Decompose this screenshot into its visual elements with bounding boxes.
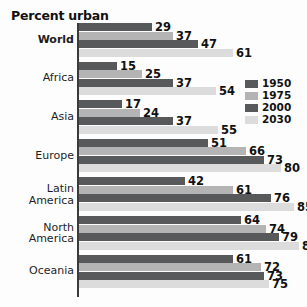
bar (79, 272, 264, 280)
bar-group: Oceania61727375 (0, 255, 307, 289)
bar (79, 233, 279, 241)
bar (79, 203, 294, 211)
legend-swatch-icon (245, 116, 258, 124)
bar (79, 216, 241, 224)
bar-group-bars: 42617685 (79, 177, 307, 211)
bar-row: 55 (79, 126, 307, 134)
bar-value-label: 87 (299, 238, 307, 252)
bar-value-label: 80 (281, 161, 300, 175)
bar-row: 15 (79, 62, 307, 70)
bar (79, 87, 216, 95)
bar-row: 42 (79, 177, 307, 185)
legend: 1950197520002030 (245, 78, 303, 126)
bar-group: World29374761 (0, 23, 307, 57)
bar-group-bars: 64747987 (79, 216, 307, 250)
category-label: Latin America (29, 183, 74, 206)
percent-urban-chart: Percent urban World29374761Africa1525375… (0, 0, 307, 307)
bar (79, 186, 233, 194)
category-label: Africa (43, 73, 74, 85)
legend-swatch-icon (245, 80, 258, 88)
category-label: North America (29, 221, 74, 244)
bar-row: 29 (79, 23, 307, 31)
bar-group-bars: 61727375 (79, 255, 307, 289)
bar (79, 40, 198, 48)
bar (79, 164, 281, 172)
bar (79, 242, 299, 250)
bar (79, 225, 266, 233)
legend-label: 1950 (262, 78, 291, 89)
legend-item: 2030 (245, 114, 303, 126)
bar (79, 156, 264, 164)
bar (79, 263, 261, 271)
bar-value-label: 85 (294, 200, 307, 214)
bar-value-label: 75 (269, 277, 288, 291)
bar (79, 23, 152, 31)
category-label: World (38, 34, 74, 46)
bar-row: 76 (79, 194, 307, 202)
bar-row: 47 (79, 40, 307, 48)
page-title: Percent urban (11, 8, 109, 23)
bar-row: 37 (79, 32, 307, 40)
bar (79, 109, 140, 117)
plot-area: World29374761Africa15253754Asia17243755E… (0, 22, 307, 298)
category-label: Oceania (29, 266, 74, 278)
legend-item: 1975 (245, 90, 303, 102)
bar (79, 177, 185, 185)
bar-group: Europe51667380 (0, 139, 307, 173)
category-label: Europe (35, 150, 74, 162)
bar-value-label: 55 (218, 122, 237, 136)
bar-row: 85 (79, 203, 307, 211)
bar (79, 70, 142, 78)
bar (79, 280, 269, 288)
bar-row: 80 (79, 164, 307, 172)
bar (79, 117, 173, 125)
bar-row: 87 (79, 242, 307, 250)
bar (79, 32, 173, 40)
bar (79, 49, 233, 57)
bar (79, 62, 117, 70)
bar-row: 79 (79, 233, 307, 241)
bar-group-bars: 51667380 (79, 139, 307, 173)
legend-swatch-icon (245, 92, 258, 100)
bar (79, 147, 246, 155)
bar (79, 255, 233, 263)
legend-label: 1975 (262, 90, 291, 101)
bar-value-label: 61 (233, 45, 252, 59)
bar (79, 100, 122, 108)
bar-row: 51 (79, 139, 307, 147)
legend-label: 2000 (262, 102, 291, 113)
category-label: Asia (51, 111, 74, 123)
bar-group-bars: 29374761 (79, 23, 307, 57)
bar-row: 61 (79, 49, 307, 57)
bar (79, 194, 271, 202)
legend-label: 2030 (262, 114, 291, 125)
bar (79, 126, 218, 134)
bar-group: Latin America42617685 (0, 177, 307, 211)
bar (79, 79, 173, 87)
bar-row: 75 (79, 280, 307, 288)
bar-group: North America64747987 (0, 216, 307, 250)
bar-row: 73 (79, 156, 307, 164)
bar (79, 139, 208, 147)
legend-swatch-icon (245, 104, 258, 112)
bar-row: 74 (79, 225, 307, 233)
legend-item: 1950 (245, 78, 303, 90)
bar-value-label: 54 (216, 84, 235, 98)
legend-item: 2000 (245, 102, 303, 114)
